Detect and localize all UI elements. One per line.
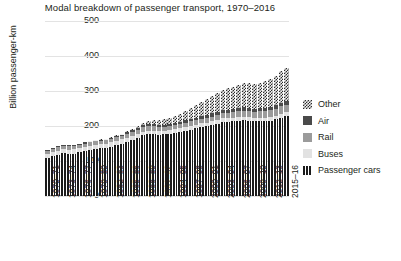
bar-segment-buses (279, 114, 283, 118)
bar-segment-air (231, 109, 235, 113)
bar-segment-buses (194, 125, 198, 129)
bar-segment-rail (247, 111, 251, 117)
bar-segment-rail (221, 113, 225, 118)
bar-segment-other (146, 121, 150, 124)
bar-segment-other (226, 88, 230, 109)
bar-segment-rail (152, 126, 156, 130)
bar-segment-rail (236, 111, 240, 117)
bar-segment-rail (83, 144, 87, 148)
bar-segment-air (99, 140, 103, 141)
bar-segment-rail (215, 115, 219, 120)
bar-segment-rail (189, 121, 193, 125)
bar-segment-air (263, 108, 267, 111)
bar-segment-rail (210, 117, 214, 122)
bar-segment-buses (114, 141, 118, 145)
bar-segment-other (210, 96, 214, 113)
bar-segment-rail (258, 111, 262, 117)
bar-segment-air (268, 107, 272, 110)
bar-segment-other (114, 135, 118, 136)
bar-segment-buses (157, 131, 161, 135)
bar-column (61, 145, 65, 196)
bar-segment-buses (162, 131, 166, 135)
bar-segment-buses (77, 148, 81, 152)
bar-segment-buses (205, 123, 209, 127)
legend-item-other[interactable]: Other (303, 96, 399, 113)
bar-segment-rail (173, 125, 177, 129)
bar-segment-rail (146, 126, 150, 130)
bar-segment-rail (226, 113, 230, 118)
legend-label: Passenger cars (318, 165, 381, 175)
bar-segment-rail (157, 127, 161, 131)
bar-segment-cars (61, 153, 65, 196)
bar-segment-air (215, 112, 219, 115)
bar-segment-air (274, 105, 278, 108)
chart-legend: OtherAirRailBusesPassenger cars (303, 96, 399, 179)
x-axis-tick-label: 1982–83 (115, 165, 125, 198)
x-axis-tick-label: 1973–74 (67, 165, 77, 198)
bar-segment-other (178, 114, 182, 122)
legend-item-buses[interactable]: Buses (303, 146, 399, 163)
bar-segment-buses (45, 154, 49, 158)
bar-segment-rail (183, 123, 187, 127)
bar-segment-buses (274, 116, 278, 120)
bar-segment-cars (157, 135, 161, 196)
bar-segment-rail (109, 139, 113, 143)
bar-segment-air (157, 125, 161, 127)
bar-column (189, 108, 193, 196)
bar-segment-buses (242, 117, 246, 121)
bar-segment-buses (93, 145, 97, 149)
legend-label: Buses (318, 149, 343, 159)
bar-segment-air (167, 124, 171, 126)
bar-segment-rail (199, 119, 203, 124)
bar-segment-other (221, 90, 225, 110)
bar-segment-buses (130, 136, 134, 140)
bar-segment-air (178, 122, 182, 124)
bar-segment-rail (45, 151, 49, 155)
legend-swatch-rail-icon (303, 133, 312, 142)
bar-segment-buses (263, 118, 267, 122)
bar-segment-rail (56, 147, 60, 151)
bar-segment-cars (77, 152, 81, 196)
bar-segment-other (252, 84, 256, 109)
bar-segment-air (173, 123, 177, 125)
bar-segment-cars (45, 158, 49, 196)
x-axis-tick-label: 2006–07 (242, 165, 252, 198)
bar-column (125, 131, 129, 196)
legend-item-air[interactable]: Air (303, 113, 399, 130)
bar-segment-air (162, 125, 166, 127)
legend-item-cars[interactable]: Passenger cars (303, 162, 399, 179)
chart-title: Modal breakdown of passenger transport, … (0, 2, 320, 13)
bar-segment-rail (178, 124, 182, 128)
bar-segment-buses (183, 127, 187, 131)
bar-segment-air (56, 146, 60, 147)
bar-segment-air (183, 120, 187, 123)
bar-segment-rail (205, 118, 209, 123)
bar-segment-other (141, 123, 145, 125)
bar-segment-other (199, 102, 203, 116)
bar-column (221, 90, 225, 196)
bar-segment-air (189, 119, 193, 122)
bar-segment-rail (77, 145, 81, 149)
bar-segment-air (83, 142, 87, 143)
legend-item-rail[interactable]: Rail (303, 129, 399, 146)
bar-segment-air (93, 140, 97, 141)
bar-segment-buses (252, 118, 256, 122)
bar-segment-other (247, 83, 251, 108)
bar-segment-air (77, 144, 81, 145)
bar-segment-rail (141, 127, 145, 131)
bar-segment-air (247, 108, 251, 112)
bar-segment-air (284, 101, 288, 105)
bar-segment-other (125, 131, 129, 132)
bar-segment-rail (231, 112, 235, 117)
bar-segment-buses (199, 123, 203, 127)
bar-segment-buses (210, 121, 214, 125)
bar-segment-rail (194, 120, 198, 124)
bar-segment-other (268, 79, 272, 107)
bar-segment-other (157, 120, 161, 125)
bar-segment-rail (136, 130, 140, 134)
bar-segment-air (236, 108, 240, 112)
bar-segment-buses (99, 144, 103, 148)
bar-segment-buses (247, 117, 251, 121)
bar-column (77, 144, 81, 197)
x-axis-tick-label: 1976–77 (83, 165, 93, 198)
